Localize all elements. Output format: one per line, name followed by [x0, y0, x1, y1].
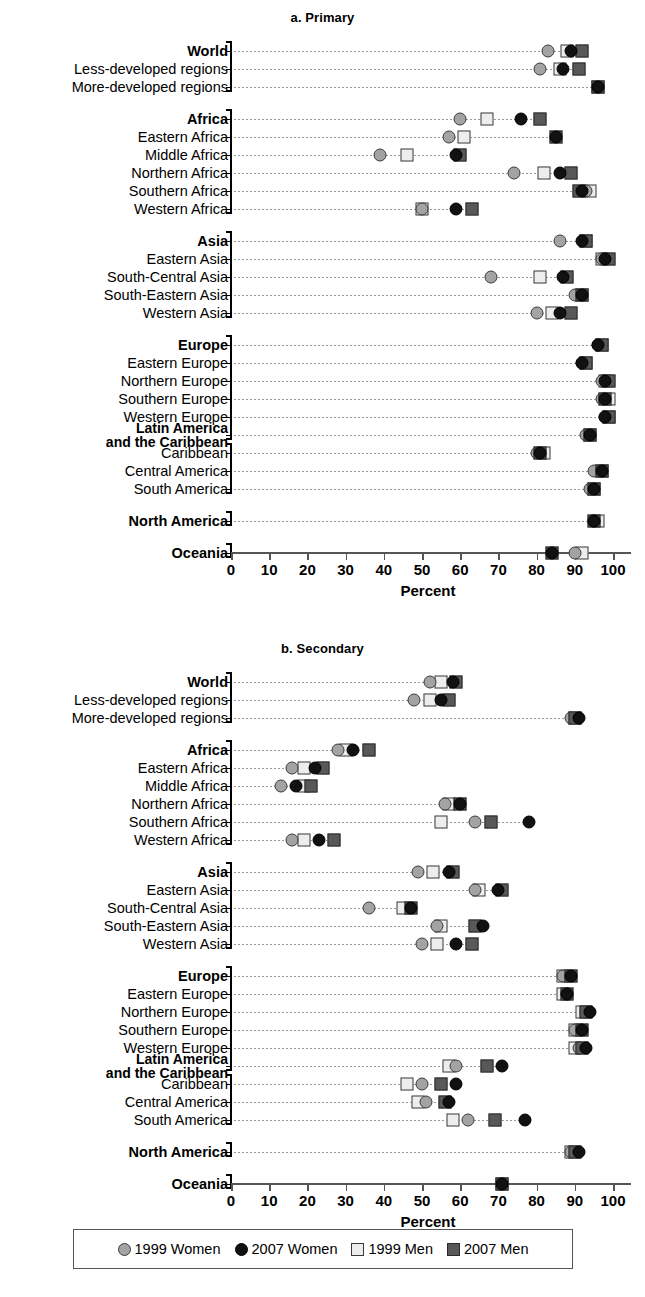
chart-row: Western Africa — [0, 831, 645, 849]
row-label: Northern Africa — [131, 166, 228, 181]
group-axis-segment — [230, 443, 232, 494]
data-point-w07 — [435, 694, 448, 707]
data-point-w99 — [416, 938, 429, 951]
row-connector-line — [234, 1048, 586, 1049]
x-axis-tick-label: 60 — [452, 1192, 469, 1209]
chart-row: Eastern Asia — [0, 250, 645, 268]
data-point-w07 — [595, 465, 608, 478]
data-point-w07 — [576, 185, 589, 198]
chart-row: North America — [0, 512, 645, 530]
data-point-w99 — [373, 149, 386, 162]
axis-cap-top — [226, 672, 232, 674]
chart-row: World — [0, 673, 645, 691]
axis-cap-bottom — [226, 1155, 232, 1157]
data-point-m07 — [435, 1078, 448, 1091]
row-connector-line — [234, 381, 609, 382]
square-dark-gray-icon — [447, 1243, 460, 1256]
data-point-m07 — [328, 834, 341, 847]
chart-row: Northern Europe — [0, 372, 645, 390]
data-point-w07 — [496, 1178, 509, 1191]
panel-b-title: b. Secondary — [0, 641, 645, 656]
row-connector-line — [234, 51, 582, 52]
row-connector-line — [234, 718, 579, 719]
data-point-w99 — [542, 45, 555, 58]
chart-row: Eastern Africa — [0, 128, 645, 146]
row-connector-line — [234, 137, 556, 138]
chart-row: Europe — [0, 967, 645, 985]
x-axis-tick — [498, 554, 500, 560]
chart-row: Less-developed regions — [0, 60, 645, 78]
data-point-w99 — [450, 1060, 463, 1073]
row-connector-line — [234, 908, 411, 909]
x-axis-tick — [346, 1185, 348, 1191]
axis-cap-top — [226, 511, 232, 513]
row-label: Eastern Africa — [138, 130, 228, 145]
row-connector-line — [234, 489, 594, 490]
row-label: Western Africa — [134, 202, 228, 217]
chart-row: Latin Americaand the Caribbean — [0, 426, 645, 444]
chart-row: Central America — [0, 1093, 645, 1111]
row-label: More-developed regions — [72, 711, 228, 726]
x-axis-tick-label: 30 — [337, 1192, 354, 1209]
axis-cap-bottom — [226, 843, 232, 845]
x-axis-title: Percent — [228, 582, 628, 599]
axis-cap-bottom — [226, 1123, 232, 1125]
group-axis-segment — [230, 231, 232, 318]
row-label: Northern Europe — [121, 1005, 228, 1020]
group-axis-segment — [230, 966, 232, 1071]
x-axis-tick-label: 40 — [375, 561, 392, 578]
x-axis-tick-label: 90 — [566, 1192, 583, 1209]
chart-row: Caribbean — [0, 1075, 645, 1093]
row-label: Southern Europe — [118, 392, 228, 407]
group-axis-segment — [230, 41, 232, 92]
data-point-m99 — [534, 271, 547, 284]
row-label: Central America — [125, 1095, 228, 1110]
row-label: North America — [129, 1145, 228, 1160]
x-axis-tick-label: 20 — [299, 1192, 316, 1209]
data-point-m99 — [427, 866, 440, 879]
row-label: Southern Africa — [129, 184, 228, 199]
row-connector-line — [234, 1120, 525, 1121]
data-point-w99 — [274, 780, 287, 793]
row-connector-line — [234, 259, 609, 260]
x-axis-tick-label: 30 — [337, 561, 354, 578]
row-connector-line — [234, 155, 460, 156]
chart-row: Northern Africa — [0, 164, 645, 182]
group-axis-segment — [230, 511, 232, 526]
data-point-m99 — [431, 938, 444, 951]
chart-row: South-Central Asia — [0, 899, 645, 917]
figure-root: a. Primary WorldLess-developed regionsMo… — [0, 0, 645, 1297]
chart-row: Africa — [0, 110, 645, 128]
x-axis-tick-label: 70 — [490, 1192, 507, 1209]
data-point-w07 — [450, 1078, 463, 1091]
row-label: Africa — [187, 743, 228, 758]
data-point-w07 — [519, 1114, 532, 1127]
row-connector-line — [234, 87, 598, 88]
data-point-w07 — [564, 45, 577, 58]
row-connector-line — [234, 69, 579, 70]
x-axis-tick-label: 80 — [528, 561, 545, 578]
chart-row: Southern Africa — [0, 813, 645, 831]
chart-row: North America — [0, 1143, 645, 1161]
row-label: Western Asia — [143, 306, 228, 321]
data-point-w07 — [553, 167, 566, 180]
data-point-w07 — [591, 81, 604, 94]
data-point-w99 — [534, 63, 547, 76]
x-axis-tick — [269, 1185, 271, 1191]
chart-row: Eastern Asia — [0, 881, 645, 899]
row-connector-line — [234, 994, 567, 995]
x-axis-tick — [384, 554, 386, 560]
row-connector-line — [234, 191, 590, 192]
data-point-w07 — [580, 1042, 593, 1055]
data-point-m07 — [534, 113, 547, 126]
axis-cap-top — [226, 543, 232, 545]
legend-entry-m07: 2007 Men — [447, 1241, 529, 1257]
chart-row: Western Europe — [0, 1039, 645, 1057]
row-label: Middle Africa — [145, 779, 228, 794]
axis-cap-bottom — [226, 316, 232, 318]
data-point-w07 — [587, 483, 600, 496]
chart-row: Eastern Europe — [0, 354, 645, 372]
row-label: Eastern Europe — [127, 987, 228, 1002]
row-label: Caribbean — [161, 1077, 228, 1092]
row-connector-line — [234, 1030, 582, 1031]
